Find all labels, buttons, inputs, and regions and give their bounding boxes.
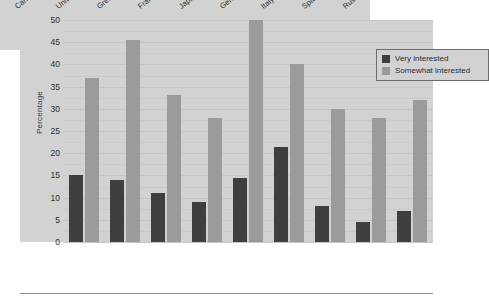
x-axis-label-germany: Germany <box>218 0 248 11</box>
plot-area: Very interested Somewhat interested <box>63 20 433 242</box>
x-axis-label-japan: Japan <box>177 0 199 11</box>
y-axis-tick-30: 30 <box>32 105 60 114</box>
y-axis-tick-20: 20 <box>32 149 60 158</box>
legend-swatch-somewhat-interested <box>382 67 390 75</box>
bar-japan-somewhat <box>249 20 263 242</box>
bar-great-britain-somewhat <box>167 95 181 242</box>
y-axis-tick-10: 10 <box>32 193 60 202</box>
y-axis-tick-0: 0 <box>32 238 60 247</box>
bar-russia-somewhat <box>413 100 427 242</box>
bar-russia-very <box>397 211 411 242</box>
x-axis-label-great-britain: Great Britain <box>95 0 134 11</box>
bottom-divider <box>20 293 433 294</box>
x-axis-label-canada: Canada <box>13 0 40 11</box>
y-axis-tick-5: 5 <box>32 216 60 225</box>
bar-germany-somewhat <box>290 64 304 242</box>
bar-japan-very <box>233 178 247 242</box>
x-axis-label-spain: Spain <box>300 0 321 11</box>
y-axis-tick-35: 35 <box>32 82 60 91</box>
y-axis-panel: Percentage 50454035302520151050 <box>20 20 63 242</box>
legend-item-very-interested[interactable]: Very interested <box>382 53 483 65</box>
x-axis-label-france: France <box>136 0 160 11</box>
bar-france-somewhat <box>208 118 222 242</box>
bar-spain-very <box>356 222 370 242</box>
x-axis-label-italy: Italy <box>259 0 276 11</box>
bar-france-very <box>192 202 206 242</box>
x-axis-label-russia: Russia <box>341 0 365 11</box>
bar-italy-very <box>315 206 329 242</box>
bar-united-states-somewhat <box>126 40 140 242</box>
bar-italy-somewhat <box>331 109 345 242</box>
y-axis-tick-45: 45 <box>32 38 60 47</box>
legend-label-very-interested: Very interested <box>395 55 448 63</box>
bar-germany-very <box>274 147 288 242</box>
y-axis-tick-40: 40 <box>32 60 60 69</box>
legend-swatch-very-interested <box>382 55 390 63</box>
bar-canada-very <box>69 175 83 242</box>
bar-great-britain-very <box>151 193 165 242</box>
bar-canada-somewhat <box>85 78 99 242</box>
y-axis-tick-15: 15 <box>32 171 60 180</box>
legend: Very interested Somewhat interested <box>376 49 489 81</box>
legend-label-somewhat-interested: Somewhat interested <box>395 67 470 75</box>
bar-united-states-very <box>110 180 124 242</box>
x-axis-label-united-states: United States <box>54 0 96 11</box>
gridline <box>63 242 433 243</box>
legend-item-somewhat-interested[interactable]: Somewhat interested <box>382 65 483 77</box>
y-axis-tick-25: 25 <box>32 127 60 136</box>
y-axis-tick-50: 50 <box>32 16 60 25</box>
bar-spain-somewhat <box>372 118 386 242</box>
